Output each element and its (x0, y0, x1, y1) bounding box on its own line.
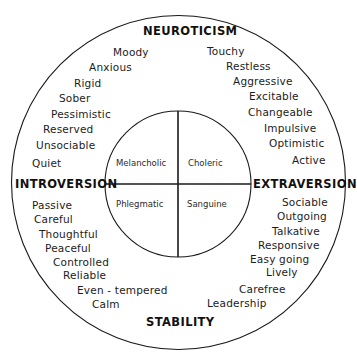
axis-label-stability: STABILITY (146, 316, 215, 329)
trait-label: Quiet (32, 157, 61, 169)
trait-label: Aggressive (233, 75, 293, 87)
trait-label: Impulsive (264, 122, 316, 134)
axis-label-neuroticism: NEUROTICISM (143, 25, 237, 38)
temperament-sanguine: Sanguine (187, 199, 227, 209)
trait-label: Pessimistic (51, 108, 111, 120)
trait-label: Sober (59, 92, 91, 104)
temperament-choleric: Choleric (188, 158, 223, 168)
trait-label: Talkative (272, 225, 320, 237)
trait-label: Leadership (207, 297, 267, 309)
trait-label: Carefree (239, 283, 286, 295)
trait-label: Even - tempered (77, 284, 168, 296)
temperament-melancholic: Melancholic (116, 158, 166, 168)
trait-label: Rigid (74, 77, 101, 89)
trait-label: Changeable (248, 106, 313, 118)
trait-label: Controlled (53, 256, 109, 268)
trait-label: Moody (113, 46, 149, 58)
trait-label: Thoughtful (39, 228, 98, 240)
trait-label: Anxious (89, 61, 132, 73)
trait-label: Passive (32, 199, 72, 211)
trait-label: Reliable (63, 269, 106, 281)
trait-label: Optimistic (269, 137, 324, 149)
trait-label: Active (292, 154, 326, 166)
trait-label: Sociable (282, 196, 328, 208)
temperament-phlegmatic: Phlegmatic (116, 199, 163, 209)
trait-label: Responsive (258, 239, 320, 251)
trait-label: Outgoing (277, 210, 327, 222)
axis-label-extraversion: EXTRAVERSION (253, 178, 357, 191)
trait-label: Peaceful (45, 242, 91, 254)
trait-label: Easy going (250, 253, 309, 265)
trait-label: Unsociable (36, 139, 95, 151)
trait-label: Calm (92, 298, 120, 310)
trait-label: Excitable (249, 90, 299, 102)
trait-label: Lively (266, 266, 298, 278)
trait-label: Reserved (43, 123, 93, 135)
trait-label: Careful (34, 213, 73, 225)
axis-label-introversion: INTROVERSION (15, 178, 117, 191)
trait-label: Touchy (207, 45, 245, 57)
trait-label: Restless (226, 60, 271, 72)
